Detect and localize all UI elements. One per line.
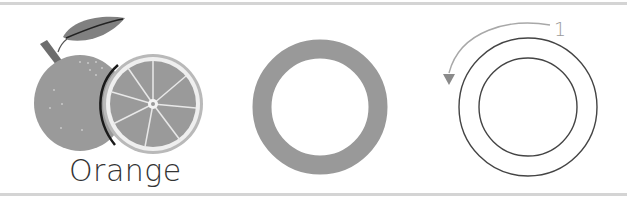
orange-illustration-icon	[0, 5, 220, 155]
stroke-order-number: 1	[554, 18, 566, 40]
letter-shape-panel	[220, 5, 420, 193]
trace-outline-ring-icon	[420, 5, 627, 193]
fruit-name-label: Orange	[69, 153, 182, 188]
bottom-border	[0, 193, 627, 196]
orange-picture-panel: Orange	[0, 5, 220, 193]
tracing-panel: 1	[420, 5, 627, 193]
filled-ring-icon	[220, 5, 420, 193]
